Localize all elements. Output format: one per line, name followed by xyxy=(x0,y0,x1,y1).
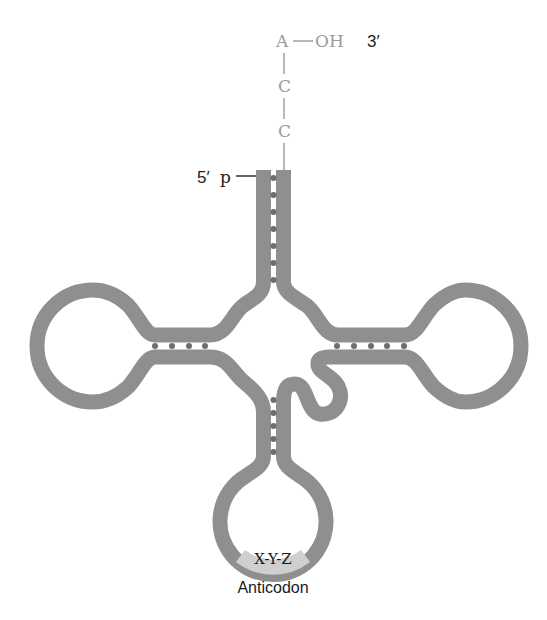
bond-dot xyxy=(384,343,390,349)
acceptor-stem-bonds xyxy=(271,175,277,283)
backbone-strand xyxy=(37,170,521,575)
phosphate-label: p xyxy=(220,167,231,187)
five-prime-end: 5′ p xyxy=(197,167,257,187)
bond-dot xyxy=(271,436,277,442)
bond-dot xyxy=(186,343,192,349)
hydroxyl-label: OH xyxy=(315,31,344,51)
base-c1: C xyxy=(278,76,291,96)
anticodon-sequence: X-Y-Z xyxy=(254,550,291,568)
five-prime-label: 5′ xyxy=(197,168,210,187)
bond-dot xyxy=(351,343,357,349)
anticodon-label: Anticodon xyxy=(237,579,308,596)
bond-dot xyxy=(401,343,407,349)
bond-dot xyxy=(271,192,277,198)
trna-diagram: A OH 3′ C C 5′ p X-Y-Z Anticodon xyxy=(0,0,547,620)
bond-dot xyxy=(271,260,277,266)
base-c2: C xyxy=(278,121,291,141)
bond-dot xyxy=(271,423,277,429)
base-a: A xyxy=(275,31,289,51)
bond-dot xyxy=(271,175,277,181)
acceptor-end: A OH 3′ C C xyxy=(275,31,380,171)
bond-dot xyxy=(271,449,277,455)
rna-backbone xyxy=(37,170,521,575)
t-arm-bonds xyxy=(334,343,407,349)
bond-dot xyxy=(271,277,277,283)
bond-dot xyxy=(271,226,277,232)
bond-dot xyxy=(271,209,277,215)
bond-dot xyxy=(152,343,158,349)
bond-dot xyxy=(202,343,208,349)
bond-dot xyxy=(169,343,175,349)
bond-dot xyxy=(271,397,277,403)
bond-dot xyxy=(271,243,277,249)
bond-dot xyxy=(334,343,340,349)
three-prime-label: 3′ xyxy=(367,32,380,51)
bond-dot xyxy=(368,343,374,349)
d-arm-bonds xyxy=(152,343,208,349)
anticodon-stem-bonds xyxy=(271,397,277,455)
bond-dot xyxy=(271,410,277,416)
